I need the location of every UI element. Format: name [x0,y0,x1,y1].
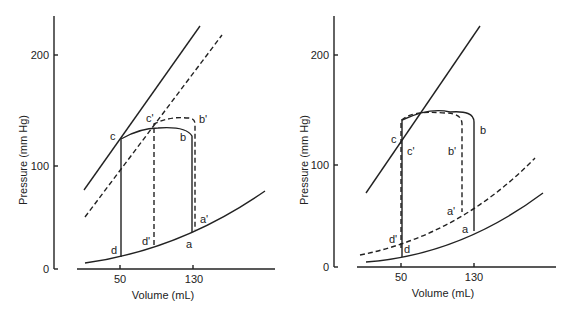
y-tick: 200 [311,49,329,61]
point-label-b-prime: b' [199,113,207,125]
point-label-b: b [180,131,186,143]
point-label-c-prime: c' [146,112,154,124]
y-axis-label: Pressure (mm Hg) [17,115,29,205]
x-axis-label: Volume (mL) [132,289,194,301]
point-label-a-prime: a' [447,205,455,217]
point-label-d-prime: d' [142,235,150,247]
x-tick: 130 [465,271,483,283]
y-tick: 0 [323,261,329,273]
point-label-c-prime: c' [407,145,415,157]
loop-solid [402,111,474,257]
figure: 0 100 200 50 130 Volume (mL) Pressure (m… [0,0,574,310]
espvr-solid [366,26,480,193]
point-label-b-prime: b' [448,145,456,157]
edpvr-solid [366,193,543,262]
x-tick: 50 [114,273,126,285]
right-panel: 0 100 200 50 130 Volume (mL) Pressure (m… [298,16,556,299]
y-tick: 200 [31,49,49,61]
loop-dashed [401,112,462,248]
point-label-d: d [111,244,117,256]
loop-dashed [154,118,195,245]
point-label-c: c [110,130,116,142]
y-axis-label: Pressure (mm Hg) [298,115,310,205]
point-label-a: a [186,238,193,250]
point-label-c: c [391,133,397,145]
x-tick: 130 [185,273,203,285]
point-label-a: a [462,223,469,235]
x-axis-label: Volume (mL) [412,287,474,299]
point-label-d: d [404,243,410,255]
point-label-a-prime: a' [200,213,208,225]
y-tick: 100 [311,159,329,171]
left-panel: 0 100 200 50 130 Volume (mL) Pressure (m… [17,16,275,301]
point-label-b: b [480,124,486,136]
y-tick: 100 [31,160,49,172]
espvr-dashed [85,35,222,217]
x-tick: 50 [395,271,407,283]
y-tick: 0 [43,263,49,275]
espvr-solid [84,26,200,190]
point-label-d-prime: d' [389,233,397,245]
